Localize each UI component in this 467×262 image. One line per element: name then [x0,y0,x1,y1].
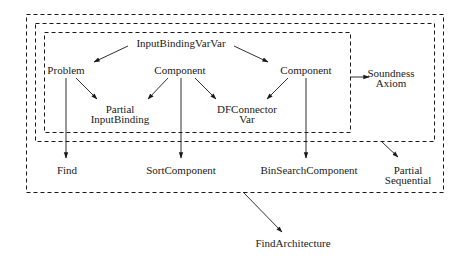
node-sort-component: SortComponent [146,165,216,175]
node-df-connector-var-line2: Var [217,114,277,124]
node-partial-input-binding-line2: InputBinding [91,114,150,124]
edge-component-left-partial-inputbinding [148,78,168,99]
node-soundness-axiom-line2: Axiom [367,78,414,88]
edge-outerbox-findarchitecture [243,192,282,232]
edge-problem-partial-inputbinding [76,78,97,99]
node-partial-sequential: Partial Sequential [385,165,431,185]
edge-component-right-dfconnector [267,78,288,99]
diagram-canvas [0,0,467,262]
edge-ibvv-problem [94,46,128,62]
node-input-binding-var-var: InputBindingVarVar [136,38,225,48]
edge-middlebox-partial-sequential [382,142,398,157]
node-bin-search-component: BinSearchComponent [260,165,357,175]
node-find: Find [57,165,77,175]
node-partial-input-binding: Partial InputBinding [91,104,150,124]
node-component-left: Component [154,65,205,75]
node-component-right: Component [280,65,331,75]
node-problem: Problem [47,65,84,75]
edge-ibvv-component-right [234,46,268,62]
edge-component-left-dfconnector [195,78,216,99]
node-find-architecture: FindArchitecture [255,238,330,248]
node-partial-sequential-line2: Sequential [385,175,431,185]
node-soundness-axiom: Soundness Axiom [367,68,414,88]
node-df-connector-var: DFConnector Var [217,104,277,124]
